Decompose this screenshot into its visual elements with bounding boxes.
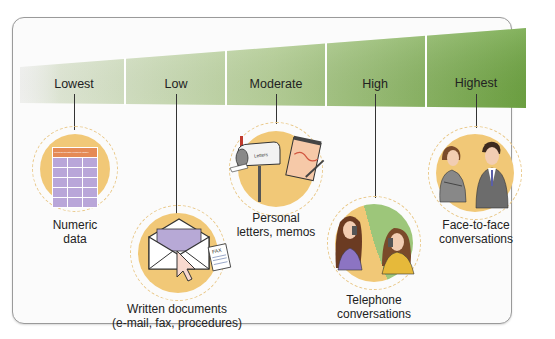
caption-line2: conversations [439, 232, 513, 246]
caption-line2: conversations [337, 307, 411, 321]
caption-numeric: Numeric data [53, 218, 98, 246]
caption-line2: letters, memos [237, 225, 316, 239]
caption-line1: Written documents [112, 302, 242, 316]
connector-lowest [74, 94, 75, 130]
telephone-people-icon [330, 208, 420, 278]
level-highest: Highest [455, 76, 497, 90]
envelope-fax-icon: FAX [145, 215, 235, 290]
connector-moderate [276, 94, 277, 124]
connector-highest [476, 94, 477, 128]
caption-line2: (e-mail, fax, procedures) [112, 316, 242, 330]
caption-personal: Personal letters, memos [237, 211, 316, 239]
two-people-talking-icon [430, 130, 520, 210]
caption-line1: Telephone [337, 293, 411, 307]
richness-scale-wedge [0, 0, 555, 120]
caption-line1: Personal [237, 211, 316, 225]
level-low: Low [165, 77, 188, 91]
caption-line1: Numeric [53, 218, 98, 232]
data-table-icon: Gross Domestic Product (GDP) [52, 147, 98, 208]
caption-line2: data [53, 232, 98, 246]
caption-telephone: Telephone conversations [337, 293, 411, 321]
caption-face: Face-to-face conversations [439, 218, 513, 246]
connector-high [375, 94, 376, 198]
caption-line1: Face-to-face [439, 218, 513, 232]
caption-written: Written documents (e-mail, fax, procedur… [112, 302, 242, 330]
level-lowest: Lowest [54, 77, 94, 91]
mailbox-notepad-icon: Letters [228, 130, 328, 210]
level-high: High [362, 77, 388, 91]
level-moderate: Moderate [250, 77, 303, 91]
